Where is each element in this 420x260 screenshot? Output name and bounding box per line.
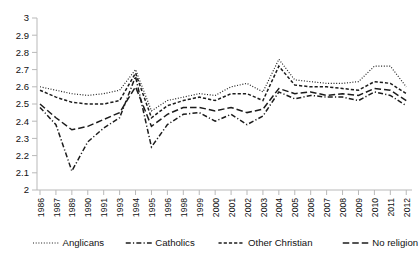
legend-label-other-christian: Other Christian: [248, 237, 313, 248]
x-tick-label: 2004: [274, 198, 284, 217]
series-line-catholics: [40, 76, 406, 171]
y-tick-label: 2.1: [16, 167, 29, 178]
x-tick-label: 1991: [99, 198, 109, 217]
x-tick-label: 1996: [163, 198, 173, 217]
x-tick-label: 1986: [36, 198, 46, 217]
x-tick-label: 2007: [322, 198, 332, 217]
x-tick-label: 2003: [259, 198, 269, 217]
y-tick-label: 2.2: [16, 150, 29, 161]
x-tick-label: 2002: [243, 198, 253, 217]
x-tick-label: 2006: [306, 198, 316, 217]
x-tick-label: 1994: [131, 198, 141, 217]
x-tick-label: 1995: [147, 198, 157, 217]
x-tick-label: 1998: [179, 198, 189, 217]
chart-legend: AnglicansCatholicsOther ChristianNo reli…: [33, 237, 418, 248]
x-tick-label: 1990: [83, 198, 93, 217]
series-line-anglicans: [40, 59, 406, 111]
y-tick-label: 2.9: [16, 30, 29, 41]
y-tick-label: 2: [24, 184, 29, 195]
x-tick-label: 2008: [338, 198, 348, 217]
legend-label-catholics: Catholics: [155, 237, 195, 248]
legend-label-anglicans: Anglicans: [63, 237, 105, 248]
x-tick-label: 2005: [290, 198, 300, 217]
x-tick-label: 2010: [370, 198, 380, 217]
y-axis-ticks: 22.12.22.32.42.52.62.72.82.93: [16, 12, 37, 195]
y-tick-label: 2.6: [16, 81, 29, 92]
chart-canvas: 22.12.22.32.42.52.62.72.82.93 1986198719…: [0, 0, 420, 260]
x-tick-label: 2001: [227, 198, 237, 217]
series-line-other-christian: [40, 66, 406, 118]
legend-label-no-religion: No religion: [372, 237, 418, 248]
x-tick-label: 1993: [115, 198, 125, 217]
y-tick-label: 2.3: [16, 133, 29, 144]
x-tick-label: 2009: [354, 198, 364, 217]
x-tick-label: 2012: [402, 198, 412, 217]
x-tick-label: 1989: [67, 198, 77, 217]
x-tick-label: 1999: [195, 198, 205, 217]
y-tick-label: 2.5: [16, 98, 29, 109]
line-chart: 22.12.22.32.42.52.62.72.82.93 1986198719…: [0, 0, 420, 260]
x-tick-label: 2011: [386, 198, 396, 217]
y-tick-label: 2.4: [16, 116, 29, 127]
y-tick-label: 2.8: [16, 47, 29, 58]
y-tick-label: 2.7: [16, 64, 29, 75]
series-lines: [40, 59, 406, 171]
series-line-no-religion: [40, 87, 406, 130]
x-axis-labels: 1986198719891990199119931994199519961998…: [36, 198, 412, 217]
x-axis-ticks: [40, 190, 406, 195]
x-tick-label: 1987: [52, 198, 62, 217]
x-tick-label: 2000: [211, 198, 221, 217]
y-tick-label: 3: [24, 12, 29, 23]
